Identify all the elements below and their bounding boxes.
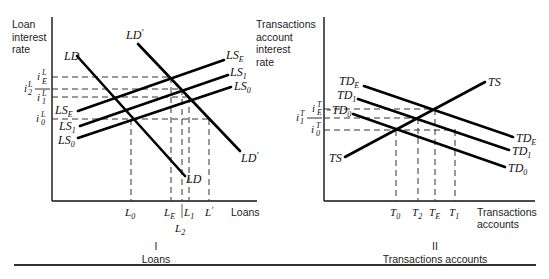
curve-LS-E	[78, 60, 224, 111]
svg-text:L: L	[41, 68, 47, 77]
svg-text:TD1: TD1	[337, 88, 356, 104]
left-curves	[77, 44, 240, 176]
svg-text:accounts: accounts	[477, 218, 519, 230]
svg-text:LD′: LD′	[240, 150, 259, 165]
svg-text:TS: TS	[488, 75, 501, 89]
svg-text:L′: L′	[204, 205, 214, 218]
svg-text:L0: L0	[124, 206, 135, 221]
svg-text:i: i	[36, 112, 39, 124]
svg-text:i: i	[37, 70, 40, 82]
svg-text:LD′: LD′	[125, 27, 144, 42]
svg-text:2: 2	[28, 88, 32, 97]
svg-text:i: i	[311, 123, 314, 135]
bottom-rule	[14, 264, 536, 266]
right-panel-caption: II Transactions accounts	[360, 240, 510, 266]
svg-text:TD0: TD0	[332, 103, 351, 119]
left-x-tick-labels: L0 LE L2 L1 L′ Loans	[124, 204, 260, 237]
economics-figure: Loan interest rate Transactions account …	[0, 0, 549, 279]
svg-text:LSE: LSE	[54, 103, 73, 119]
svg-text:Loans: Loans	[231, 206, 260, 218]
svg-text:TE: TE	[429, 206, 440, 221]
svg-text:TS: TS	[329, 151, 342, 165]
svg-text:L1: L1	[183, 206, 194, 221]
svg-text:E: E	[41, 77, 47, 86]
svg-text:T1: T1	[449, 206, 459, 221]
svg-text:0: 0	[41, 118, 45, 127]
svg-text:i: i	[296, 111, 299, 123]
panel-numeral: II	[360, 240, 510, 253]
diagram-canvas: LD LD′ LSE LS1 LS0 LSE LS1 LS0 LD LD′ i …	[0, 0, 549, 279]
svg-text:i: i	[37, 91, 40, 103]
svg-text:TD1: TD1	[512, 144, 531, 160]
svg-text:LSE: LSE	[225, 48, 244, 64]
svg-text:Transactions: Transactions	[477, 206, 537, 218]
svg-text:LE: LE	[163, 206, 175, 221]
right-curves	[345, 82, 513, 167]
panel-numeral: I	[120, 240, 192, 253]
svg-text:i: i	[312, 102, 315, 114]
svg-text:LS0: LS0	[233, 79, 251, 95]
curve-LS-0	[78, 87, 231, 138]
left-horizontal-guides	[52, 77, 210, 119]
svg-text:T0: T0	[390, 206, 400, 221]
svg-text:1: 1	[300, 117, 304, 126]
svg-text:E: E	[316, 108, 322, 117]
right-panel-transactions: TS TS TDE TD1 TD0 TDE TD1 TD0 i T E i T …	[296, 17, 537, 230]
svg-text:T2: T2	[412, 206, 422, 221]
right-x-tick-labels: T0 T2 TE T1 Transactions accounts	[390, 206, 537, 230]
right-y-tick-labels: i T E i T 1 i T 0	[296, 100, 322, 138]
svg-text:LD: LD	[185, 172, 202, 186]
svg-text:1: 1	[42, 97, 46, 106]
left-panel-caption: I Loans	[120, 240, 192, 266]
curve-TD-E	[364, 86, 513, 137]
left-y-tick-labels: i L E i L 2 i L 1 i L 0	[24, 68, 50, 127]
left-panel-loans: LD LD′ LSE LS1 LS0 LSE LS1 LS0 LD LD′ i …	[24, 17, 260, 237]
right-curve-labels: TS TS TDE TD1 TD0 TDE TD1 TD0	[327, 74, 536, 177]
left-curve-labels: LD LD′ LSE LS1 LS0 LSE LS1 LS0 LD LD′	[54, 27, 259, 186]
svg-text:LS0: LS0	[57, 133, 75, 149]
svg-text:L2: L2	[174, 222, 185, 237]
svg-text:TD0: TD0	[508, 161, 527, 177]
svg-text:i: i	[24, 82, 27, 94]
svg-text:0: 0	[316, 129, 320, 138]
svg-text:LD: LD	[63, 49, 80, 63]
curve-LD	[77, 56, 185, 176]
